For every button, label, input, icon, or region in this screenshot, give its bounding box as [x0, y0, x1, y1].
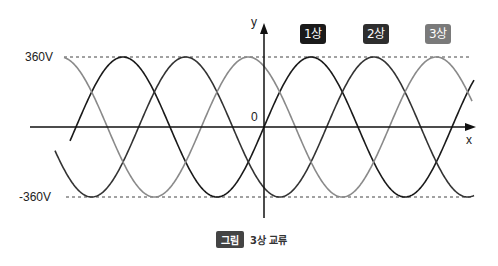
legend-phase-3: 3상 — [425, 24, 451, 44]
y-tick-max: 360V — [25, 50, 53, 64]
caption-text: 3상 교류 — [250, 232, 287, 247]
caption-tag: 그림 — [216, 231, 244, 248]
legend-phase-2: 2상 — [363, 24, 389, 44]
legend-phase-1: 1상 — [300, 24, 326, 44]
y-tick-min: -360V — [19, 190, 51, 204]
x-axis-label: x — [466, 133, 472, 147]
y-axis-label: y — [251, 15, 257, 29]
x-axis-arrow — [465, 123, 476, 131]
figure-caption: 그림 3상 교류 — [216, 231, 287, 248]
three-phase-diagram — [0, 0, 498, 266]
y-axis-arrow — [260, 23, 268, 34]
origin-label: 0 — [251, 110, 258, 124]
